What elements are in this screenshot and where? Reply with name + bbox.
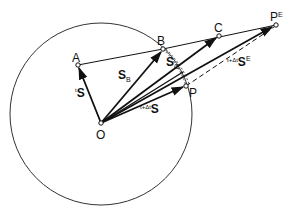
label-t-s: tS [75, 86, 85, 100]
point-o [99, 121, 103, 125]
label-a: A [72, 51, 80, 65]
label-c: C [214, 21, 223, 35]
label-s-b: SB [118, 68, 131, 83]
vector-extra-1 [101, 72, 183, 123]
point-p [184, 84, 188, 88]
label-tdt-s-e: t+ΔtSE [227, 55, 251, 69]
kinematics-diagram: A B C O P PE tS SB SC t+ΔtS t+ΔtSE [0, 0, 298, 217]
label-s-c: SC [166, 55, 179, 70]
label-b: B [157, 34, 165, 48]
edge-a-b [78, 49, 163, 65]
label-p: P [189, 86, 197, 100]
vector-tdt-s-e [101, 27, 272, 123]
label-o: O [96, 128, 105, 142]
label-tdt-s: t+ΔtS [140, 102, 159, 116]
label-pe: PE [270, 10, 283, 24]
